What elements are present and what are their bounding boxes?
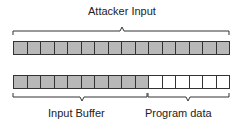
filled-cell	[68, 76, 82, 88]
filled-cell	[82, 76, 96, 88]
filled-cell	[122, 42, 136, 54]
filled-cell	[55, 42, 69, 54]
filled-cell	[203, 42, 217, 54]
filled-cell	[95, 42, 109, 54]
input-buffer-label: Input Buffer	[48, 107, 105, 119]
input-buffer-brace	[13, 93, 147, 101]
filled-cell	[136, 76, 150, 88]
filled-cell	[95, 76, 109, 88]
filled-cell	[28, 42, 42, 54]
filled-cell	[109, 76, 123, 88]
empty-cell	[176, 76, 190, 88]
attacker-input-row	[13, 41, 230, 55]
empty-cell	[217, 76, 230, 88]
filled-cell	[217, 42, 230, 54]
filled-cell	[122, 76, 136, 88]
empty-cell	[203, 76, 217, 88]
filled-cell	[14, 42, 28, 54]
top-brace	[13, 27, 229, 35]
filled-cell	[28, 76, 42, 88]
empty-cell	[163, 76, 177, 88]
filled-cell	[163, 42, 177, 54]
filled-cell	[136, 42, 150, 54]
memory-row	[13, 75, 230, 89]
filled-cell	[14, 76, 28, 88]
filled-cell	[109, 42, 123, 54]
filled-cell	[68, 42, 82, 54]
program-data-label: Program data	[145, 107, 212, 119]
empty-cell	[190, 76, 204, 88]
filled-cell	[41, 76, 55, 88]
program-data-brace	[148, 93, 229, 101]
empty-cell	[149, 76, 163, 88]
filled-cell	[55, 76, 69, 88]
filled-cell	[41, 42, 55, 54]
filled-cell	[149, 42, 163, 54]
filled-cell	[82, 42, 96, 54]
filled-cell	[176, 42, 190, 54]
filled-cell	[190, 42, 204, 54]
